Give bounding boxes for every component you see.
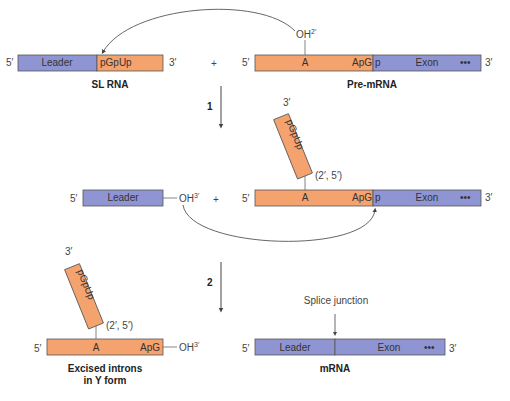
oh-label: OH2′ <box>296 28 317 40</box>
mrna-caption: mRNA <box>320 363 351 374</box>
apg-label: ApG <box>140 342 160 353</box>
ellipsis-icon: ••• <box>460 192 471 203</box>
leader-label: Leader <box>279 342 311 353</box>
branch-a-label: A <box>302 192 309 203</box>
phosphate-label: p <box>375 192 381 203</box>
exon-label: Exon <box>416 57 439 68</box>
pre-mrna-caption: Pre-mRNA <box>347 79 397 90</box>
excised-caption-line2: in Y form <box>84 375 127 386</box>
linkage-label: (2′, 5′) <box>106 320 133 331</box>
exon-label: Exon <box>416 192 439 203</box>
step-2-label: 2 <box>207 277 213 288</box>
branch-a-label: A <box>302 57 309 68</box>
step-1-label: 1 <box>207 101 213 112</box>
leader-label: Leader <box>41 57 73 68</box>
phosphate-label: p <box>375 57 381 68</box>
oh-label: OH3′ <box>179 192 200 204</box>
five-prime-label: 5′ <box>242 57 250 68</box>
linkage-label: (2′, 5′) <box>315 170 342 181</box>
nucleophilic-attack-arrow-2 <box>183 205 375 241</box>
five-prime-label: 5′ <box>70 193 78 204</box>
mature-mrna: Splice junction 5′ Leader Exon ••• 3′ mR… <box>242 295 457 374</box>
sl-rna: 5′ Leader pGpUp 3′ SL RNA <box>6 55 177 90</box>
three-prime-label: 3′ <box>169 57 177 68</box>
ellipsis-icon: ••• <box>460 57 471 68</box>
exon-label: Exon <box>378 342 401 353</box>
excised-caption-line1: Excised introns <box>68 363 143 374</box>
three-prime-label: 3′ <box>65 246 73 257</box>
five-prime-label: 5′ <box>242 193 250 204</box>
pre-mrna: 5′ A ApG p Exon ••• 3′ OH2′ Pre-mRNA <box>242 28 493 90</box>
ellipsis-icon: ••• <box>424 342 435 353</box>
five-prime-label: 5′ <box>34 343 42 354</box>
branch-a-label: A <box>93 342 100 353</box>
oh-label: OH3′ <box>179 341 200 353</box>
leader-label: Leader <box>107 192 139 203</box>
splice-junction-label: Splice junction <box>304 295 368 306</box>
nucleophilic-attack-arrow-1 <box>103 9 295 52</box>
plus-sign: + <box>211 58 217 69</box>
five-prime-label: 5′ <box>242 343 250 354</box>
three-prime-label: 3′ <box>449 343 457 354</box>
trans-splicing-diagram: 5′ Leader pGpUp 3′ SL RNA + 5′ A ApG p E… <box>0 0 510 401</box>
pgpup-branch: pGpUp <box>65 262 108 329</box>
leader-intermediate: 5′ Leader OH3′ <box>70 190 200 206</box>
apg-label: ApG <box>352 192 372 203</box>
apg-label: ApG <box>352 57 372 68</box>
pgpup-label: pGpUp <box>100 57 132 68</box>
three-prime-label: 3′ <box>283 97 291 108</box>
sl-rna-caption: SL RNA <box>91 79 128 90</box>
three-prime-label: 3′ <box>485 57 493 68</box>
y-intermediate: 5′ A ApG p Exon ••• 3′ pGpUp 3′ (2′, 5′) <box>242 97 493 206</box>
five-prime-label: 5′ <box>6 57 14 68</box>
pgpup-branch: pGpUp <box>274 112 317 179</box>
excised-intron: 5′ A ApG OH3′ pGpUp 3′ (2′, 5′) Excised … <box>34 246 200 386</box>
three-prime-label: 3′ <box>485 192 493 203</box>
plus-sign: + <box>213 194 219 205</box>
